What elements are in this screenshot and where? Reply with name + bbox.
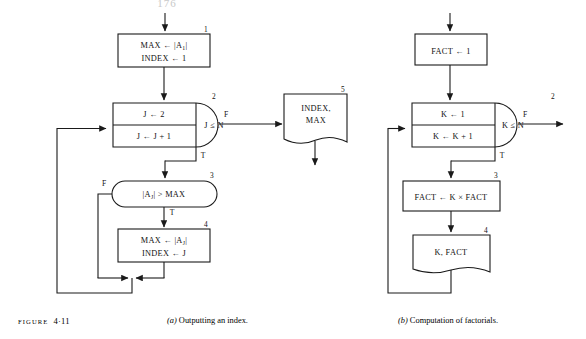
caption-a: (a) Outputting an index. xyxy=(167,316,248,325)
node-a4-number: 4 xyxy=(204,220,208,229)
node-a3-false-label: F xyxy=(102,179,106,188)
node-b2-condition: K ≤ N xyxy=(502,121,524,130)
node-a5-line2: MAX xyxy=(306,116,326,125)
node-a5-line1: INDEX, xyxy=(301,104,331,113)
figure-label-number: 4·11 xyxy=(53,316,69,326)
node-a2-loop-box: 2 J ← 2 J ← J + 1 J ≤ N xyxy=(113,92,224,147)
node-a1-line2: INDEX ← 1 xyxy=(141,54,186,63)
figure-page: 176 1 MAX ← |A1| INDEX ← 1 xyxy=(0,0,586,339)
node-a2-condition: J ≤ N xyxy=(204,121,223,130)
caption-b-tag: (b) xyxy=(398,316,408,325)
node-b2-true-label: T xyxy=(500,151,505,160)
caption-b: (b) Computation of factorials. xyxy=(398,316,498,325)
node-a2-false-label: F xyxy=(224,110,228,119)
node-b2-loop-box: 2 K ← 1 K ← K + 1 K ≤ N xyxy=(412,92,555,147)
node-a3-number: 3 xyxy=(210,171,214,180)
caption-a-text: Outputting an index. xyxy=(179,316,248,325)
node-b4-output-box: 4 K, FACT xyxy=(413,226,490,273)
node-b2-increment: K ← K + 1 xyxy=(433,132,473,141)
node-a2-true-label: T xyxy=(201,151,206,160)
edge-a2-true-segment xyxy=(165,147,196,161)
node-a5-number: 5 xyxy=(341,85,345,94)
edge-b2-true-segment xyxy=(451,147,495,161)
caption-a-tag: (a) xyxy=(167,316,177,325)
node-b4-number: 4 xyxy=(484,226,488,235)
node-a1-line1: MAX ← |A1| xyxy=(140,41,187,51)
node-a3-true-label: T xyxy=(170,208,175,217)
caption-b-text: Computation of factorials. xyxy=(410,316,498,325)
node-a3-condition: |AJ| > MAX xyxy=(143,190,186,200)
node-a2-init: J ← 2 xyxy=(143,110,164,119)
node-b2-init: K ← 1 xyxy=(441,110,465,119)
node-a2-increment: J ← J + 1 xyxy=(137,132,172,141)
figure-label: FIGURE4·11 xyxy=(18,316,70,326)
node-b3-number: 3 xyxy=(494,171,498,180)
node-a1-number: 1 xyxy=(204,25,208,34)
node-b1-text: FACT ← 1 xyxy=(431,47,470,56)
diagram-a: 1 MAX ← |A1| INDEX ← 1 2 J ← 2 J ← J + 1… xyxy=(57,13,347,293)
node-a4-line1: MAX ← |AJ| xyxy=(141,236,187,246)
node-a5-output-box: 5 INDEX, MAX xyxy=(284,85,347,143)
node-a4-line2: INDEX ← J xyxy=(142,249,187,258)
node-b2-number: 2 xyxy=(551,92,555,101)
figure-label-prefix: FIGURE xyxy=(18,318,48,325)
node-b2-false-label: F xyxy=(523,110,527,119)
figure-canvas: 1 MAX ← |A1| INDEX ← 1 2 J ← 2 J ← J + 1… xyxy=(0,0,586,339)
node-b4-text: K, FACT xyxy=(435,248,468,257)
node-b3-text: FACT ← K × FACT xyxy=(415,193,488,202)
edge-a3-false-path xyxy=(98,194,112,278)
diagram-b: FACT ← 1 2 K ← 1 K ← K + 1 K ≤ N F T 3 xyxy=(388,13,563,293)
node-a2-number: 2 xyxy=(212,92,216,101)
caption-row: FIGURE4·11 (a) Outputting an index. (b) … xyxy=(0,316,586,336)
edge-loop-back-path-a xyxy=(57,128,132,293)
